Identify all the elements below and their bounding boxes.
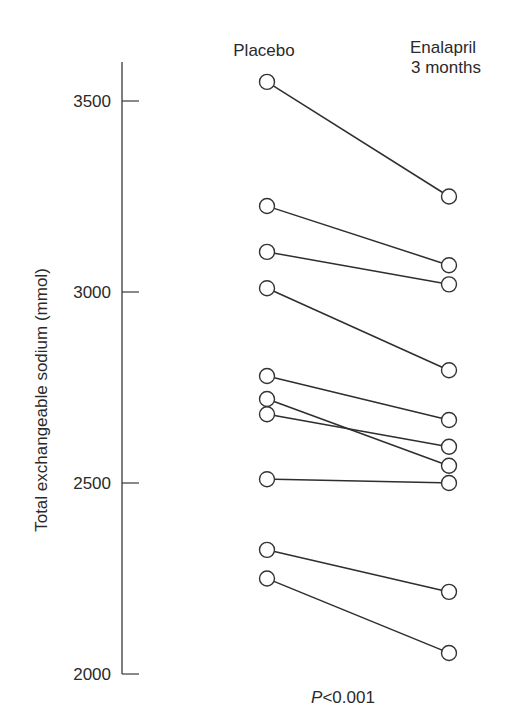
y-tick-label-3000: 3000 [73, 283, 111, 302]
marker-enalapril-1 [442, 189, 457, 204]
pair-line-2 [274, 208, 442, 263]
pair-line-10 [274, 581, 442, 650]
pair-8 [260, 472, 457, 491]
marker-placebo-10 [260, 571, 275, 586]
y-tick-label-2500: 2500 [73, 474, 111, 493]
p-symbol: P [311, 688, 323, 707]
marker-placebo-7 [260, 407, 275, 422]
marker-enalapril-5 [442, 412, 457, 427]
y-ticks: 2000250030003500 [73, 92, 139, 684]
pair-line-4 [274, 291, 442, 367]
marker-placebo-1 [260, 74, 275, 89]
data-pairs [260, 74, 457, 660]
marker-enalapril-8 [442, 476, 457, 491]
pair-line-3 [274, 253, 441, 283]
pair-line-6 [274, 402, 442, 464]
pair-line-5 [274, 378, 441, 418]
marker-enalapril-3 [442, 277, 457, 292]
header-placebo: Placebo [233, 41, 294, 60]
header-enalapril: Enalapril3 months [410, 38, 481, 77]
pair-4 [260, 281, 457, 378]
marker-placebo-9 [260, 542, 275, 557]
pair-line-1 [273, 86, 442, 193]
marker-placebo-8 [260, 472, 275, 487]
pair-3 [260, 244, 457, 291]
y-axis-label: Total exchangeable sodium (mmol) [32, 268, 51, 532]
pair-7 [260, 407, 457, 454]
pair-9 [260, 542, 457, 599]
marker-enalapril-9 [442, 584, 457, 599]
header-enalapril-line-1: Enalapril [410, 38, 476, 57]
marker-enalapril-7 [442, 439, 457, 454]
marker-placebo-5 [260, 369, 275, 384]
y-tick-label-2000: 2000 [73, 665, 111, 684]
pair-6 [260, 391, 457, 473]
marker-placebo-4 [260, 281, 275, 296]
pair-2 [260, 199, 457, 273]
marker-enalapril-6 [442, 458, 457, 473]
paired-dot-chart: 2000250030003500 Total exchangeable sodi… [0, 0, 513, 725]
p-value-annotation: P<0.001 [311, 688, 375, 707]
pair-line-9 [274, 552, 441, 591]
header-enalapril-line-2: 3 months [411, 58, 481, 77]
marker-enalapril-10 [442, 645, 457, 660]
marker-enalapril-4 [442, 363, 457, 378]
marker-placebo-3 [260, 244, 275, 259]
y-tick-label-3500: 3500 [73, 92, 111, 111]
p-value-text: <0.001 [322, 688, 374, 707]
pair-1 [260, 74, 457, 204]
category-headers: PlaceboEnalapril3 months [233, 38, 481, 77]
marker-enalapril-2 [442, 258, 457, 273]
pair-10 [260, 571, 457, 660]
marker-placebo-2 [260, 199, 275, 214]
pair-line-8 [274, 479, 441, 483]
marker-placebo-6 [260, 391, 275, 406]
pair-line-7 [274, 416, 441, 446]
